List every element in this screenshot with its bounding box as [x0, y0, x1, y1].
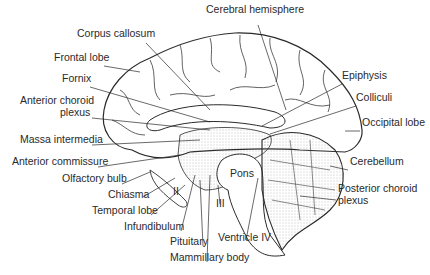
- label-pons: Pons: [230, 167, 254, 179]
- label-anterior-commissure: Anterior commissure: [12, 155, 108, 167]
- label-temporal-lobe: Temporal lobe: [92, 204, 158, 216]
- leader-line-frontal-lobe: [104, 66, 140, 72]
- label-corpus-callosum: Corpus callosum: [77, 27, 155, 39]
- label-colliculi: Colliculi: [356, 91, 392, 103]
- label-anterior-choroid-plexus-2: plexus: [60, 106, 90, 118]
- label-ventricle-iv: Ventricle IV: [218, 231, 271, 243]
- leader-line-corpus-callosum: [146, 43, 210, 110]
- cerebellum-shape: [262, 133, 343, 250]
- label-massa-intermedia: Massa intermedia: [20, 133, 103, 145]
- label-anterior-choroid-plexus-1: Anterior choroid: [20, 94, 94, 106]
- label-chiasma: Chiasma: [108, 188, 149, 200]
- label-frontal-lobe: Frontal lobe: [54, 51, 109, 63]
- leader-line-anterior-commissure: [98, 155, 180, 167]
- label-cerebral-hemisphere: Cerebral hemisphere: [206, 3, 304, 15]
- corpus-callosum-shape: [147, 105, 285, 131]
- label-fornix: Fornix: [62, 72, 91, 84]
- label-pituitary: Pituitary: [170, 235, 208, 247]
- label-mammillary-body: Mammillary body: [170, 251, 249, 263]
- label-posterior-choroid-plexus-1: Posterior choroid: [338, 182, 417, 194]
- label-epiphysis: Epiphysis: [342, 69, 387, 81]
- label-occipital-lobe: Occipital lobe: [362, 116, 425, 128]
- leader-line-cerebral-hemisphere: [258, 25, 286, 110]
- label-olfactory-bulb: Olfactory bulb: [62, 172, 127, 184]
- label-oculomotor-III: III: [216, 197, 225, 209]
- brain-diagram: Cerebral hemisphereCorpus callosumFronta…: [0, 0, 430, 275]
- label-infundibulum: Infundibulum: [124, 220, 184, 232]
- label-optic-nerve-II: II: [173, 185, 179, 197]
- label-posterior-choroid-plexus-2: plexus: [338, 194, 368, 206]
- label-cerebellum: Cerebellum: [350, 155, 404, 167]
- leader-line-colliculi: [270, 106, 356, 134]
- leader-line-fornix: [90, 87, 210, 122]
